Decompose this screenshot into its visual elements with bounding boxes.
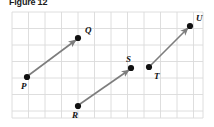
point-label-s: S <box>126 54 131 64</box>
grid-background <box>12 12 203 118</box>
point-u <box>187 23 193 29</box>
point-label-r: R <box>71 110 78 120</box>
point-s <box>128 65 134 71</box>
point-t <box>146 64 152 70</box>
point-label-p: P <box>21 81 27 91</box>
point-label-u: U <box>196 13 203 23</box>
point-p <box>24 74 30 80</box>
point-r <box>75 103 81 109</box>
point-label-t: T <box>154 71 160 81</box>
point-q <box>75 35 81 41</box>
point-label-q: Q <box>85 25 92 35</box>
figure-container: Figure 12 <box>0 0 214 127</box>
geometry-diagram: P Q R S T U <box>0 0 214 127</box>
